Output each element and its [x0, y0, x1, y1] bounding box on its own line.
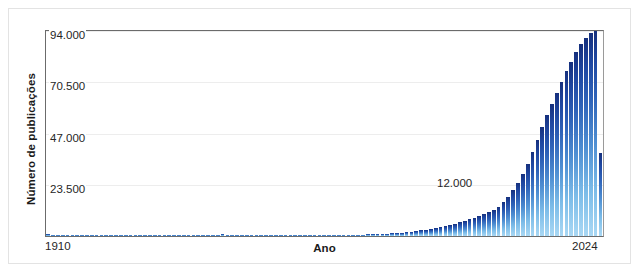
bar	[216, 235, 220, 236]
bar	[347, 235, 351, 236]
bar	[211, 235, 215, 236]
bar	[429, 229, 433, 236]
bar	[240, 235, 244, 236]
y-axis-tick-label: 70.500	[49, 80, 86, 92]
bar	[419, 230, 423, 236]
bar	[506, 197, 510, 236]
bar	[400, 233, 404, 236]
bar	[196, 235, 200, 236]
data-label-12000: 12.000	[437, 177, 472, 189]
bar	[75, 235, 79, 236]
bar	[201, 235, 205, 236]
bar	[192, 235, 196, 236]
bar	[540, 127, 544, 236]
bar	[424, 230, 428, 236]
y-axis-tick-label: 94.000	[49, 29, 86, 41]
y-axis-title: Número de publicações	[25, 59, 37, 219]
bar	[119, 235, 123, 236]
bar	[473, 218, 477, 236]
bar	[555, 93, 559, 236]
bar	[405, 232, 409, 236]
bar	[298, 235, 302, 236]
bar	[526, 164, 530, 236]
bar	[589, 33, 593, 236]
bar	[342, 235, 346, 236]
bar	[274, 235, 278, 236]
bar	[226, 235, 230, 236]
bar	[148, 235, 152, 236]
bar	[579, 44, 583, 236]
bar	[477, 216, 481, 236]
y-axis-tick-label: 23.500	[49, 183, 86, 195]
bar	[230, 235, 234, 236]
bar	[143, 235, 147, 236]
bar	[187, 235, 191, 236]
bar	[516, 183, 520, 236]
bar	[80, 235, 84, 236]
bar	[569, 62, 573, 236]
y-axis-tick-label: 47.000	[49, 132, 86, 144]
bar	[531, 152, 535, 236]
bar	[381, 234, 385, 236]
bar	[361, 235, 365, 236]
bar	[337, 235, 341, 236]
bar	[177, 235, 181, 236]
bar	[521, 174, 525, 236]
bar	[245, 235, 249, 236]
bar	[444, 226, 448, 236]
bar	[318, 235, 322, 236]
bar	[482, 214, 486, 236]
bar	[308, 235, 312, 236]
bar	[206, 235, 210, 236]
bar	[492, 210, 496, 236]
bar	[51, 235, 55, 236]
bar	[129, 235, 133, 236]
bar	[487, 212, 491, 236]
bar	[414, 231, 418, 236]
bar	[395, 233, 399, 236]
bar	[293, 235, 297, 236]
bar	[574, 52, 578, 236]
bar	[313, 235, 317, 236]
bar	[322, 235, 326, 236]
bar	[90, 235, 94, 236]
bar	[259, 235, 263, 236]
bar	[100, 235, 104, 236]
bar	[439, 227, 443, 236]
bar	[172, 235, 176, 236]
bar	[371, 234, 375, 236]
x-axis-title: Ano	[45, 242, 604, 254]
bar	[85, 235, 89, 236]
bar	[289, 235, 293, 236]
bar	[458, 222, 462, 236]
bar	[376, 234, 380, 236]
plot-area	[45, 30, 604, 237]
bar	[134, 235, 138, 236]
bar	[560, 82, 564, 236]
bar	[332, 235, 336, 236]
bar	[104, 235, 108, 236]
bar	[565, 71, 569, 236]
bar	[182, 235, 186, 236]
bar	[390, 233, 394, 236]
bar	[124, 235, 128, 236]
bar	[356, 235, 360, 236]
bar	[95, 235, 99, 236]
bar	[410, 232, 414, 236]
bar	[599, 153, 603, 236]
bar	[109, 235, 113, 236]
bar	[584, 38, 588, 236]
bar	[235, 235, 239, 236]
bar	[545, 115, 549, 236]
bar	[56, 235, 60, 236]
bar	[550, 104, 554, 236]
bar	[448, 225, 452, 236]
bar	[327, 235, 331, 236]
bar	[153, 235, 157, 236]
bar	[279, 235, 283, 236]
bar	[114, 235, 118, 236]
bar	[66, 235, 70, 236]
bar	[366, 234, 370, 236]
bar	[250, 235, 254, 236]
bar	[255, 235, 259, 236]
